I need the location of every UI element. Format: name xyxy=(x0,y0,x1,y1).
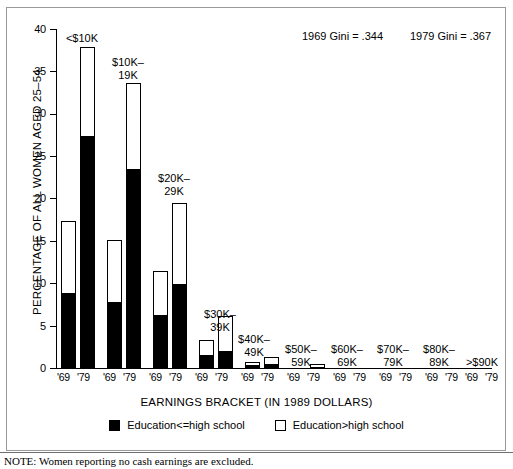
bar-segment-filled xyxy=(154,315,167,367)
x-tick-label-1969: '69 xyxy=(333,371,346,383)
bar-segment-filled xyxy=(246,365,259,367)
bar-segment-filled xyxy=(108,302,121,367)
legend-item-open: Education>high school xyxy=(275,419,404,431)
bar-1969-10k-19k xyxy=(107,240,122,368)
y-tick-label-0: 0 xyxy=(22,363,46,374)
bracket-label-80k-89k: $80K– 89K xyxy=(415,343,463,368)
figure-root: 40 35 30 25 20 15 10 5 0 PERCENTAGE OF A… xyxy=(0,0,513,469)
x-tick-label-1969: '69 xyxy=(195,371,208,383)
legend-label-open: Education>high school xyxy=(293,419,404,431)
x-tick-label-1979: '79 xyxy=(307,371,320,383)
bar-segment-filled xyxy=(127,169,140,367)
bracket-label-40k-49k: $40K– 49K xyxy=(230,333,278,358)
bracket-label-20k-29k: $20K– 29K xyxy=(150,172,198,197)
bar-1969-20k-29k xyxy=(153,271,168,368)
x-axis-line xyxy=(56,368,492,369)
y-axis-title: PERCENTAGE OF ALL WOMEN AGED 25–54 xyxy=(31,42,43,342)
x-tick-label-1979: '79 xyxy=(399,371,412,383)
x-tick-label-1979: '79 xyxy=(261,371,274,383)
y-tick-label-40: 40 xyxy=(22,24,46,35)
x-tick-label-1969: '69 xyxy=(425,371,438,383)
bar-segment-filled xyxy=(62,293,75,367)
x-tick-label-1969: '69 xyxy=(241,371,254,383)
bar-1969-lt10k xyxy=(61,221,76,368)
bracket-label-30k-39k: $30K– 39K xyxy=(196,308,244,333)
bar-1969-30k-39k xyxy=(199,340,214,368)
x-tick-label-1979: '79 xyxy=(77,371,90,383)
figure-note: NOTE: Women reporting no cash earnings a… xyxy=(4,455,253,467)
x-tick-label-1979: '79 xyxy=(353,371,366,383)
legend-swatch-open-icon xyxy=(275,420,286,431)
bracket-label-lt10k: <$10K xyxy=(58,32,106,45)
note-divider xyxy=(0,452,513,453)
bar-1969-40k-49k xyxy=(245,362,260,368)
bar-segment-filled xyxy=(81,136,94,367)
chart-legend: Education<=high school Education>high sc… xyxy=(0,419,513,431)
x-tick-label-1969: '69 xyxy=(287,371,300,383)
bar-1979-20k-29k xyxy=(172,203,187,368)
x-tick-label-1979: '79 xyxy=(169,371,182,383)
bracket-label-70k-79k: $70K– 79K xyxy=(369,343,417,368)
x-tick-label-1969: '69 xyxy=(103,371,116,383)
x-tick-label-1969: '69 xyxy=(57,371,70,383)
x-tick-label-1969: '69 xyxy=(465,371,478,383)
x-axis-title: EARNINGS BRACKET (IN 1989 DOLLARS) xyxy=(0,396,513,408)
bar-1979-10k-19k xyxy=(126,83,141,368)
x-tick-label-1979: '79 xyxy=(215,371,228,383)
x-tick-label-1979: '79 xyxy=(485,371,498,383)
legend-item-filled: Education<=high school xyxy=(109,419,244,431)
bracket-label-10k-19k: $10K– 19K xyxy=(104,56,152,81)
bar-segment-filled xyxy=(200,355,213,367)
bracket-label-50k-59k: $50K– 59K xyxy=(277,343,325,368)
bracket-label-gt90k: >$90K xyxy=(457,356,507,369)
x-tick-label-1969: '69 xyxy=(149,371,162,383)
x-tick-label-1969: '69 xyxy=(379,371,392,383)
bracket-label-60k-69k: $60K– 69K xyxy=(323,343,371,368)
bar-1979-lt10k xyxy=(80,47,95,368)
x-tick-label-1979: '79 xyxy=(123,371,136,383)
legend-label-filled: Education<=high school xyxy=(127,419,244,431)
bar-segment-filled xyxy=(173,284,186,367)
x-tick-label-1979: '79 xyxy=(445,371,458,383)
legend-swatch-filled-icon xyxy=(109,420,120,431)
